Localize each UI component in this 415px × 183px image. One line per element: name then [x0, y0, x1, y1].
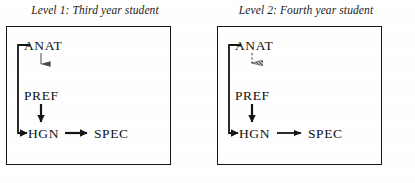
node-pref-level-2: PREF	[235, 88, 270, 104]
node-pref-level-1: PREF	[24, 88, 59, 104]
node-hgn-level-1: HGN	[28, 126, 59, 142]
panel-title-level-2: Level 2: Fourth year student	[211, 4, 401, 16]
node-anat-level-2: ANAT	[235, 38, 273, 54]
panel-title-level-1: Level 1: Third year student	[0, 4, 190, 16]
node-spec-level-2: SPEC	[308, 126, 343, 142]
node-hgn-level-2: HGN	[239, 126, 270, 142]
node-anat-level-1: ANAT	[24, 38, 62, 54]
panel-level-2: Level 2: Fourth year student	[211, 0, 401, 183]
node-spec-level-1: SPEC	[94, 126, 129, 142]
panel-level-1: Level 1: Third year student	[0, 0, 190, 183]
figure-canvas: Level 1: Third year student	[0, 0, 415, 183]
